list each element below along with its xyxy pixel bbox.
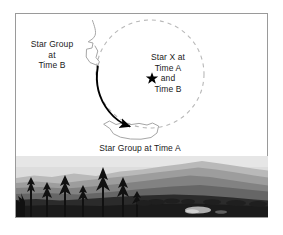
star-group-time-b-outline-icon [86, 21, 99, 66]
landscape-photograph [16, 156, 268, 217]
label-star-group-time-b: Star Group at Time B [22, 39, 82, 71]
label-star-group-time-b-line3: Time B [22, 60, 82, 71]
label-star-x-line4: Time B [136, 84, 200, 95]
label-star-x-line1: Star X at [136, 52, 200, 63]
label-star-x-line2: Time A [136, 63, 200, 74]
figure-container: Star Group at Time B Star X at Time A an… [0, 0, 283, 235]
label-star-x-line3: and [136, 73, 200, 84]
label-star-x: Star X at Time A and Time B [136, 52, 200, 94]
label-star-group-time-a: Star Group at Time A [79, 143, 201, 154]
label-star-group-time-b-line2: at [22, 50, 82, 61]
landscape-photograph-image [16, 156, 268, 217]
rotation-arrow-icon [97, 67, 130, 127]
label-star-group-time-b-line1: Star Group [22, 39, 82, 50]
label-star-group-time-a-text: Star Group at Time A [79, 143, 201, 154]
star-group-time-a-outline-icon [104, 121, 159, 139]
